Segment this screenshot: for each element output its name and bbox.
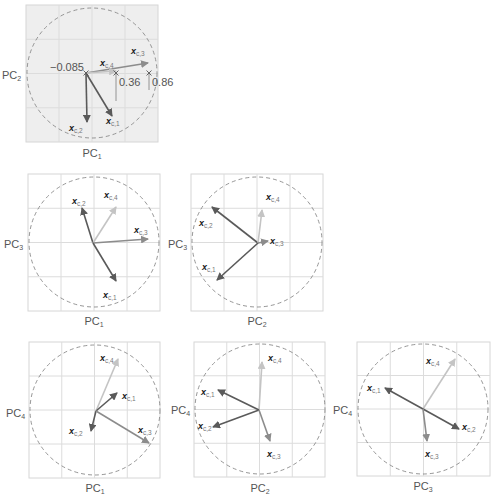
- projection-value: 0.86: [152, 76, 173, 88]
- biplot-panel-pc1-pc4: xc,4xc,1xc,2xc,3PC1PC4: [6, 342, 160, 495]
- projection-value: −0.085: [50, 61, 84, 73]
- y-axis-label: PC2: [2, 69, 21, 82]
- biplot-panel-pc3-pc4: xc,4xc,1xc,2xc,3PC3PC4: [333, 342, 490, 493]
- y-axis-label: PC3: [4, 238, 23, 251]
- arrow-icon: [86, 73, 87, 122]
- biplot-panel-pc1-pc2: xc,1xc,2xc,3xc,4−0.0850.360.86PC1PC2: [2, 5, 173, 160]
- projection-value: 0.36: [119, 76, 140, 88]
- y-axis-label: PC4: [333, 404, 352, 417]
- y-axis-label: PC3: [168, 238, 187, 251]
- y-axis-label: PC4: [6, 407, 25, 420]
- biplot-panel-pc2-pc4: xc,4xc,1xc,2xc,3PC2PC4: [171, 342, 325, 495]
- x-axis-label: PC1: [84, 315, 103, 328]
- x-axis-label: PC3: [413, 480, 432, 493]
- y-axis-label: PC4: [171, 404, 190, 417]
- biplot-panel-pc2-pc3: xc,2xc,4xc,3xc,1PC2PC3: [168, 174, 323, 328]
- x-axis-label: PC1: [82, 147, 101, 160]
- biplot-panel-pc1-pc3: xc,2xc,4xc,3xc,1PC1PC3: [4, 174, 160, 328]
- x-axis-label: PC2: [250, 482, 269, 495]
- x-axis-label: PC1: [85, 482, 104, 495]
- x-axis-label: PC2: [247, 315, 266, 328]
- pca-loading-figure: xc,1xc,2xc,3xc,4−0.0850.360.86PC1PC2xc,2…: [0, 0, 495, 498]
